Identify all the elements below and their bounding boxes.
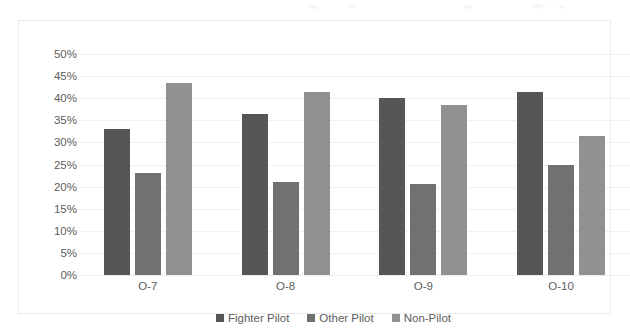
y-tick-label: 5%: [37, 246, 77, 260]
bar-O-9-fighter-pilot[interactable]: [379, 98, 405, 275]
y-tick-label: 50%: [37, 47, 77, 61]
y-axis: 50%45%40%35%30%25%20%15%10%5%0%: [37, 47, 77, 283]
bar-O-9-non-pilot[interactable]: [441, 105, 467, 275]
x-tick-label-O-9: O-9: [363, 279, 483, 294]
bar-group-O-10: [517, 54, 605, 275]
bar-O-8-non-pilot[interactable]: [304, 92, 330, 275]
bar-O-7-non-pilot[interactable]: [166, 83, 192, 275]
x-tick-label-O-10: O-10: [501, 279, 621, 294]
scan-artifact: [300, 1, 600, 12]
legend-entry-fighter-pilot[interactable]: Fighter Pilot: [216, 311, 289, 325]
chart-plot-frame: 50%45%40%35%30%25%20%15%10%5%0% O-7O-8O-…: [18, 20, 611, 314]
bar-O-7-fighter-pilot[interactable]: [104, 129, 130, 275]
bar-O-8-other-pilot[interactable]: [273, 182, 299, 275]
legend-swatch-icon: [216, 314, 224, 322]
y-tick-label: 30%: [37, 135, 77, 149]
y-tick-label: 35%: [37, 113, 77, 127]
y-tick-label: 45%: [37, 69, 77, 83]
legend-label: Other Pilot: [319, 311, 373, 325]
y-tick-label: 40%: [37, 91, 77, 105]
x-axis: O-7O-8O-9O-10: [79, 279, 630, 297]
y-tick-label: 20%: [37, 180, 77, 194]
y-tick-label: 10%: [37, 224, 77, 238]
bar-O-8-fighter-pilot[interactable]: [242, 114, 268, 275]
legend-label: Non-Pilot: [404, 311, 451, 325]
x-tick-label-O-7: O-7: [88, 279, 208, 294]
bar-group-O-8: [242, 54, 330, 275]
legend-entry-non-pilot[interactable]: Non-Pilot: [392, 311, 451, 325]
legend-swatch-icon: [307, 314, 315, 322]
bar-group-O-7: [104, 54, 192, 275]
bar-O-10-non-pilot[interactable]: [579, 136, 605, 275]
x-tick-label-O-8: O-8: [226, 279, 346, 294]
legend-label: Fighter Pilot: [228, 311, 289, 325]
y-tick-label: 0%: [37, 268, 77, 282]
legend-entry-other-pilot[interactable]: Other Pilot: [307, 311, 373, 325]
chart-legend: Fighter PilotOther PilotNon-Pilot: [37, 310, 630, 326]
bar-O-7-other-pilot[interactable]: [135, 173, 161, 275]
y-tick-label: 25%: [37, 158, 77, 172]
bar-O-10-other-pilot[interactable]: [548, 165, 574, 276]
y-tick-label: 15%: [37, 202, 77, 216]
gridline-0%: [79, 275, 630, 276]
plot-area: [79, 54, 630, 275]
bar-O-10-fighter-pilot[interactable]: [517, 92, 543, 275]
legend-swatch-icon: [392, 314, 400, 322]
bar-group-O-9: [379, 54, 467, 275]
bar-O-9-other-pilot[interactable]: [410, 184, 436, 275]
